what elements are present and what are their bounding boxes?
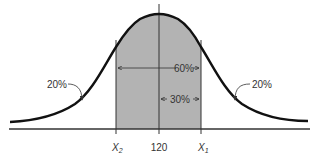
normal-distribution-chart: 60% 30% 20% 20% X2 120 X1 [0,0,320,162]
right-tail-arrow [235,84,250,100]
mean-tick-label: 120 [151,142,168,153]
left-tail-arrow [68,84,82,100]
x2-tick-label: X2 [111,142,123,154]
right-tail-label: 20% [252,79,272,90]
x1-tick-label: X1 [197,142,209,154]
left-tail-label: 20% [47,79,67,90]
pct30-label: 30% [170,94,190,105]
pct60-label: 60% [174,63,194,74]
